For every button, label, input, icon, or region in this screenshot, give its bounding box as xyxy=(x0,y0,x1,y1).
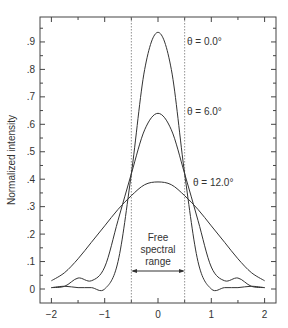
y-tick-label: .5 xyxy=(27,146,36,157)
y-tick-label: .2 xyxy=(27,229,36,240)
x-tick-label: 1 xyxy=(209,309,215,320)
y-tick-labels: 0.1.2.3.4.5.6.7.8.9 xyxy=(27,36,36,294)
fsr-label-line2: spectral xyxy=(140,244,175,255)
x-tick-label: −1 xyxy=(99,309,111,320)
y-tick-label: 0 xyxy=(29,284,35,295)
chart: −2−1012 0.1.2.3.4.5.6.7.8.9 Normalized i… xyxy=(0,0,288,328)
curve-label-theta-0: θ = 0.0° xyxy=(187,36,222,47)
y-tick-label: .3 xyxy=(27,201,36,212)
y-tick-label: .6 xyxy=(27,119,36,130)
curve-label-theta-6: θ = 6.0° xyxy=(187,106,222,117)
y-tick-label: .1 xyxy=(27,256,36,267)
y-axis-label: Normalized intensity xyxy=(6,115,17,205)
x-tick-label: −2 xyxy=(46,309,58,320)
y-tick-label: .8 xyxy=(27,64,36,75)
y-tick-label: .7 xyxy=(27,91,36,102)
y-tick-label: .9 xyxy=(27,36,36,47)
x-tick-label: 2 xyxy=(262,309,268,320)
x-tick-labels: −2−1012 xyxy=(46,309,268,320)
fsr-double-arrow xyxy=(131,269,185,273)
fsr-label-line1: Free xyxy=(148,232,169,243)
x-tick-label: 0 xyxy=(155,309,161,320)
curve-label-theta-12: θ = 12.0° xyxy=(193,177,233,188)
y-tick-label: .4 xyxy=(27,174,36,185)
fsr-label-line3: range xyxy=(145,256,171,267)
